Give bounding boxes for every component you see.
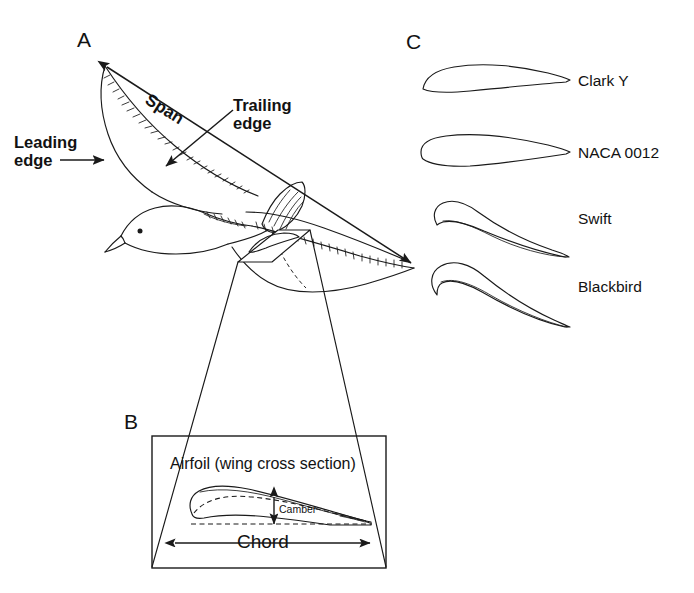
airfoil-blackbird-shape — [432, 263, 570, 327]
cross-section-plane — [238, 230, 310, 262]
bird-tail — [262, 182, 305, 232]
panel-letter-b: B — [124, 410, 139, 434]
airfoil-naca-0012-shape — [421, 135, 570, 166]
panel-b-title: Airfoil (wing cross section) — [170, 455, 356, 473]
bird-eye — [138, 229, 143, 234]
panel-letter-a: A — [77, 28, 92, 52]
trailing-edge-label: Trailing edge — [233, 96, 292, 133]
right-wing-inner-hatching — [207, 212, 245, 228]
leading-edge-label-line2: edge — [14, 151, 53, 169]
panel-c-airfoils — [421, 65, 570, 327]
airfoil-name-clark-y: Clark Y — [578, 72, 629, 89]
camber-label: Camber — [279, 504, 316, 516]
chord-label: Chord — [237, 531, 289, 552]
bird-left-wing — [101, 66, 258, 214]
airfoil-swift-shape — [434, 201, 569, 257]
left-wing-feather-hatching — [104, 75, 249, 193]
airfoil-name-swift: Swift — [578, 210, 612, 227]
airfoil-name-naca-0012: NACA 0012 — [578, 144, 659, 161]
airfoil-clark-y-shape — [423, 65, 570, 93]
trailing-edge-label-line2: edge — [233, 114, 272, 132]
panel-letter-c: C — [406, 30, 422, 54]
airfoil-name-blackbird: Blackbird — [578, 278, 642, 295]
figure-root: A B C Span Trailing edge Leading edge Ai… — [0, 0, 694, 593]
leading-edge-label: Leading edge — [14, 133, 77, 170]
trailing-edge-label-line1: Trailing — [233, 96, 292, 114]
tail-feather-lines — [269, 190, 303, 229]
leading-edge-label-line1: Leading — [14, 133, 77, 151]
bird-body — [105, 206, 268, 254]
panel-a-bird-drawing — [101, 66, 414, 567]
